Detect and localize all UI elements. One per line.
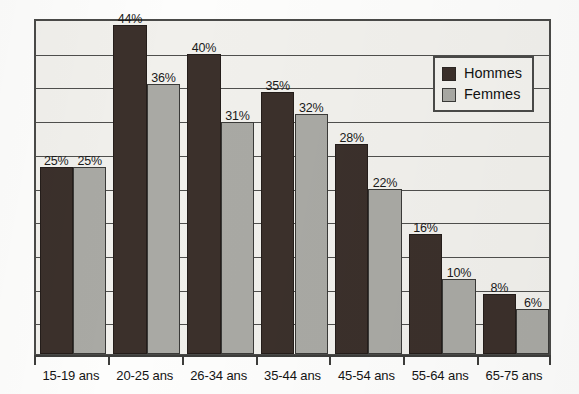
bar-hommes-20-25-ans [113, 25, 146, 355]
bar-value-label: 25% [73, 154, 106, 168]
legend-label-femmes: Femmes [464, 87, 520, 102]
bar-femmes-65-75-ans [516, 309, 549, 354]
bar-hommes-35-44-ans [261, 92, 294, 354]
x-axis-tick [549, 357, 551, 365]
bar-hommes-65-75-ans [483, 294, 516, 354]
x-axis-tick [108, 357, 110, 365]
legend-label-hommes: Hommes [464, 66, 522, 81]
bar-value-label: 36% [147, 71, 180, 85]
legend-item-hommes: Hommes [442, 63, 522, 84]
bar-femmes-26-34-ans [221, 122, 254, 354]
x-axis-label: 35-44 ans [256, 368, 330, 383]
bar-hommes-15-19-ans [40, 167, 73, 354]
x-axis-tick [256, 357, 258, 365]
bar-value-label: 32% [295, 101, 328, 115]
bar-value-label: 16% [409, 221, 442, 235]
x-axis-label: 45-54 ans [329, 368, 403, 383]
bar-femmes-35-44-ans [295, 114, 328, 354]
bar-hommes-55-64-ans [409, 234, 442, 354]
bar-hommes-26-34-ans [187, 54, 220, 354]
x-axis-tick [34, 357, 36, 365]
bar-value-label: 31% [221, 109, 254, 123]
x-axis-tick [403, 357, 405, 365]
bar-value-label: 35% [261, 79, 294, 93]
bar-femmes-20-25-ans [147, 84, 180, 354]
bar-value-label: 6% [516, 296, 549, 310]
bar-value-label: 40% [187, 41, 220, 55]
x-axis-tick [182, 357, 184, 365]
chart-legend: Hommes Femmes [433, 56, 534, 112]
bar-femmes-45-54-ans [368, 189, 401, 354]
bar-femmes-55-64-ans [442, 279, 475, 354]
x-axis-tick [477, 357, 479, 365]
x-axis-label: 55-64 ans [403, 368, 477, 383]
bar-value-label: 28% [335, 131, 368, 145]
x-axis-label: 65-75 ans [477, 368, 551, 383]
x-axis-line [34, 355, 551, 357]
bar-value-label: 8% [483, 281, 516, 295]
x-axis-label: 15-19 ans [34, 368, 108, 383]
legend-swatch-femmes-icon [442, 88, 456, 102]
bar-hommes-45-54-ans [335, 144, 368, 354]
bar-value-label: 10% [442, 266, 475, 280]
x-axis-label: 20-25 ans [108, 368, 182, 383]
x-axis-label: 26-34 ans [182, 368, 256, 383]
legend-item-femmes: Femmes [442, 84, 522, 105]
bar-value-label: 44% [113, 12, 146, 26]
bar-value-label: 25% [40, 154, 73, 168]
bar-femmes-15-19-ans [73, 167, 106, 354]
legend-swatch-hommes-icon [442, 67, 456, 81]
bar-value-label: 22% [368, 176, 401, 190]
x-axis-tick [329, 357, 331, 365]
bar-chart: 25%25%44%36%40%31%35%32%28%22%16%10%8%6%… [0, 0, 579, 394]
